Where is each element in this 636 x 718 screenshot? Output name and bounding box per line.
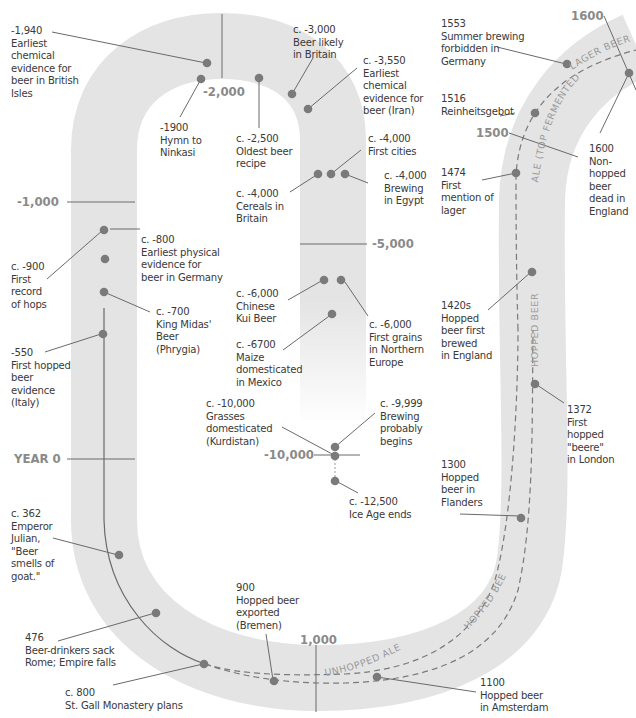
event-label-800: c. 800 St. Gall Monastery plans [65,687,183,712]
event-label-476: 476 Beer-drinkers sack Rome; Empire fall… [25,632,116,670]
event-label-cereals-britain: c. -4,000 Cereals in Britain [236,188,284,226]
event-label-1474: 1474 First mention of lager [441,167,494,217]
axis-label-minus-2000: -2,000 [203,84,245,99]
event-label-brewing-begins: c. -9,999 Brewing probably begins [380,398,423,448]
event-label-1600: 1600 Non- hopped beer dead in England [589,143,628,219]
event-label-minus-900: c. -900 First record of hops [11,261,47,311]
event-label-1420s: 1420s Hopped beer first brewed in Englan… [441,300,492,363]
event-label-minus-550: -550 First hopped beer evidence (Italy) [11,347,71,410]
event-label-1553: 1553 Summer brewing forbidden in Germany [441,18,524,68]
band-label-hopped-beer-vertical: HOPPED BEER [529,293,540,367]
event-label-1516: 1516 Reinheitsgebot [441,93,514,118]
event-label-1300: 1300 Hopped beer in Flanders [441,459,483,509]
event-label-1372: 1372 First hopped "beere" in London [567,404,614,467]
event-label-minus-2500: c. -2,500 Oldest beer recipe [236,133,292,171]
event-label-362: c. 362 Emperor Julian, "Beer smells of g… [11,508,54,584]
event-label-minus-800: c. -800 Earliest physical evidence for b… [141,234,223,284]
beer-history-timeline: UNHOPPED ALE HOPPED BEER ALE (TOP FERMEN… [0,0,636,718]
event-label-minus-1900: -1900 Hymn to Ninkasi [160,122,202,160]
event-label-1100: 1100 Hopped beer in Amsterdam [480,677,548,715]
event-label-chinese-kui: c. -6,000 Chinese Kui Beer [236,288,279,326]
axis-label-plus-1000: 1,000 [300,632,337,647]
axis-label-minus-5000: -5,000 [372,236,414,251]
event-label-minus-1940: -1,940 Earliest chemical evidence for be… [11,25,79,101]
event-label-first-cities: c. -4,000 First cities [368,133,416,158]
axis-label-plus-1500: 1500 [476,125,509,140]
event-label-minus-3550: c. -3,550 Earliest chemical evidence for… [363,55,423,118]
timeline-band: UNHOPPED ALE HOPPED BEER ALE (TOP FERMEN… [0,0,636,718]
event-label-grasses: c. -10,000 Grasses domesticated (Kurdist… [206,398,272,448]
event-label-first-grains: c. -6,000 First grains in Northern Europ… [369,319,424,369]
event-label-ice-age: c. -12,500 Ice Age ends [349,496,411,521]
event-label-maize: c. -6700 Maize domesticated in Mexico [236,339,302,389]
axis-label-plus-1600: 1600 [571,8,604,23]
event-label-brewing-egypt: c. -4,000 Brewing in Egypt [384,170,427,208]
axis-label-minus-10000: -10,000 [264,447,314,462]
event-label-minus-700: c. -700 King Midas' Beer (Phrygia) [156,306,211,356]
axis-label-year-0: YEAR 0 [14,451,61,466]
axis-label-minus-1000: -1,000 [17,194,59,209]
event-label-minus-3000: c. -3,000 Beer likely in Britain [293,24,343,62]
event-label-900: 900 Hopped beer exported (Bremen) [236,582,299,632]
